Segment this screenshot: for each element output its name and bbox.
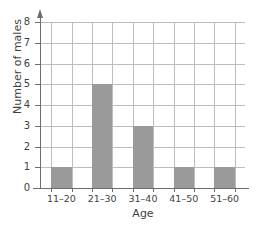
bar-chart: Number of males 012345678 11–2021–3031–4… (0, 0, 263, 228)
x-axis-title: Age (41, 207, 245, 220)
bar-11-20 (51, 167, 71, 188)
bar-21-30 (92, 84, 112, 188)
x-tick-mark (194, 188, 195, 192)
x-tick-mark (153, 188, 154, 192)
y-tick-mark (35, 105, 40, 106)
x-tick-mark (92, 188, 93, 192)
gridline-vertical (51, 22, 52, 188)
x-axis-line (33, 188, 249, 189)
gridline-vertical (174, 22, 175, 188)
gridline-vertical (72, 22, 73, 188)
y-tick-mark (35, 84, 40, 85)
gridline-vertical (194, 22, 195, 188)
x-tick-mark (51, 188, 52, 192)
y-tick-label: 4 (6, 100, 30, 110)
y-tick-mark (35, 64, 40, 65)
y-axis-arrow-icon (37, 9, 43, 18)
x-tick-mark (214, 188, 215, 192)
y-tick-label: 7 (6, 38, 30, 48)
y-axis-line (40, 16, 41, 189)
x-tick-mark (112, 188, 113, 192)
y-tick-mark (35, 126, 40, 127)
bar-51-60 (214, 167, 234, 188)
gridline-vertical (112, 22, 113, 188)
x-tick-mark (235, 188, 236, 192)
y-tick-mark (35, 147, 40, 148)
y-tick-label: 8 (6, 17, 30, 27)
x-tick-mark (174, 188, 175, 192)
bar-41-50 (174, 167, 194, 188)
x-tick-label: 51–60 (200, 194, 250, 204)
y-tick-mark (35, 167, 40, 168)
y-tick-label: 5 (6, 79, 30, 89)
y-tick-label: 1 (6, 162, 30, 172)
gridline-vertical (214, 22, 215, 188)
x-tick-mark (72, 188, 73, 192)
plot-area (41, 22, 245, 188)
gridline-vertical (153, 22, 154, 188)
bar-31-40 (133, 126, 153, 188)
gridline-vertical (235, 22, 236, 188)
y-tick-label: 6 (6, 59, 30, 69)
y-tick-label: 3 (6, 121, 30, 131)
y-tick-mark (35, 22, 40, 23)
y-tick-label: 2 (6, 142, 30, 152)
y-tick-label: 0 (6, 183, 30, 193)
y-tick-mark (35, 188, 40, 189)
y-tick-mark (35, 43, 40, 44)
x-tick-mark (133, 188, 134, 192)
